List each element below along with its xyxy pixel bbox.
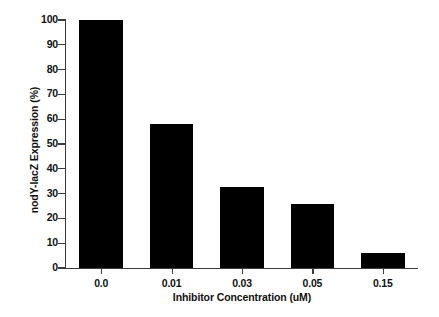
- x-axis-title: Inhibitor Concentration (uM): [66, 291, 418, 303]
- y-axis-tick: [58, 69, 66, 70]
- y-axis-tick: [58, 218, 66, 219]
- x-axis-tick-label: 0.01: [137, 277, 207, 289]
- bar: [79, 20, 123, 268]
- x-axis-tick: [172, 268, 173, 274]
- y-axis-tick: [58, 267, 66, 268]
- y-axis-tick: [58, 168, 66, 169]
- x-axis-tick-label: 0.0: [66, 277, 136, 289]
- x-axis-tick: [383, 268, 384, 274]
- y-axis-tick-label: 100: [28, 13, 58, 25]
- x-axis-tick-label: 0.05: [277, 277, 347, 289]
- x-axis-tick: [312, 268, 313, 274]
- y-axis-tick-label: 90: [28, 38, 58, 50]
- y-axis-tick: [58, 119, 66, 120]
- y-axis-tick-label: 0: [28, 261, 58, 273]
- plot-area: [66, 20, 418, 268]
- x-axis-tick: [101, 268, 102, 274]
- bar: [150, 124, 194, 268]
- x-axis-tick-label: 0.15: [348, 277, 418, 289]
- bar: [291, 204, 335, 268]
- y-axis-tick: [58, 19, 66, 20]
- y-axis-tick: [58, 143, 66, 144]
- x-axis-tick-label: 0.03: [207, 277, 277, 289]
- y-axis-tick: [58, 243, 66, 244]
- x-axis-tick: [242, 268, 243, 274]
- bar: [361, 253, 405, 268]
- y-axis-title: nodY-lacZ Expression (%): [28, 50, 40, 250]
- y-axis-tick: [58, 193, 66, 194]
- bar: [220, 187, 264, 268]
- bar-chart-figure: 0102030405060708090100 0.00.010.030.050.…: [0, 0, 439, 317]
- y-axis-tick: [58, 94, 66, 95]
- y-axis-tick: [58, 44, 66, 45]
